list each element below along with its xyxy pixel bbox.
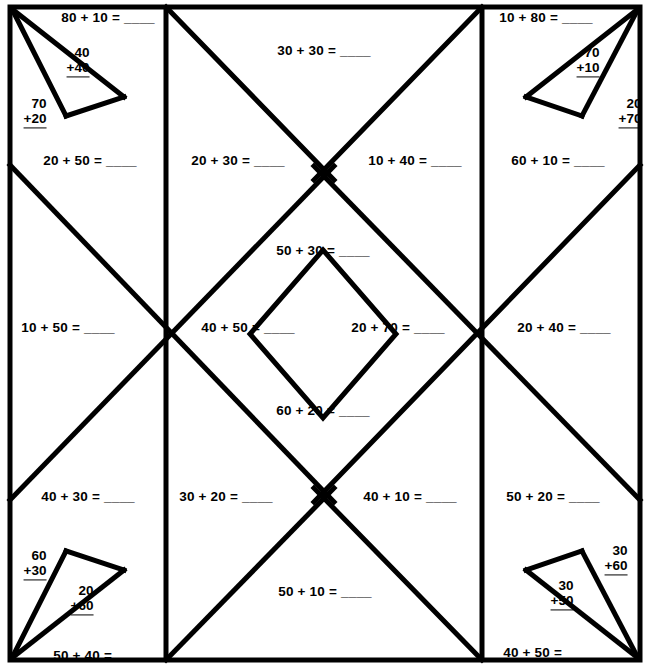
- equation-row1-col1[interactable]: 20 + 50 = ____: [43, 153, 137, 168]
- equation-stacked-tl-inner[interactable]: 40+40: [67, 46, 90, 77]
- addend-top: 70: [24, 97, 47, 112]
- equation-stacked-bl-inner[interactable]: 20+60: [71, 584, 94, 615]
- equation-row1-col2[interactable]: 20 + 30 = ____: [191, 153, 285, 168]
- equation-bottom-center[interactable]: 50 + 10 = ____: [278, 584, 372, 599]
- equation-bl-bottom[interactable]: 50 + 40 = ____: [53, 648, 147, 663]
- equation-br-bottom[interactable]: 40 + 50 = ____: [503, 645, 597, 660]
- equation-stacked-tr-inner[interactable]: 70+10: [577, 46, 600, 77]
- equation-stacked-tl-outer[interactable]: 70+20: [24, 97, 47, 128]
- equation-stacked-tr-outer[interactable]: 20+70: [619, 97, 642, 128]
- problem-labels-layer: 80 + 10 = ____30 + 30 = ____10 + 80 = __…: [0, 0, 648, 668]
- addend-bottom: +30: [24, 564, 47, 581]
- addend-bottom: +70: [619, 112, 642, 129]
- addend-bottom: +20: [24, 112, 47, 129]
- addend-top: 40: [67, 46, 90, 61]
- addend-top: 20: [619, 97, 642, 112]
- addend-bottom: +60: [71, 599, 94, 616]
- addend-bottom: +40: [67, 61, 90, 78]
- equation-stacked-bl-outer[interactable]: 60+30: [24, 549, 47, 580]
- worksheet-page: 80 + 10 = ____30 + 30 = ____10 + 80 = __…: [0, 0, 648, 668]
- addend-top: 70: [577, 46, 600, 61]
- equation-row3-col4[interactable]: 50 + 20 = ____: [506, 489, 600, 504]
- addend-bottom: +10: [577, 61, 600, 78]
- equation-row3-col3[interactable]: 40 + 10 = ____: [363, 489, 457, 504]
- equation-diamond-left[interactable]: 40 + 50 = ____: [201, 320, 295, 335]
- equation-stacked-br-inner[interactable]: 30+50: [551, 579, 574, 610]
- equation-diamond-right[interactable]: 20 + 70 = ____: [351, 320, 445, 335]
- addend-top: 30: [551, 579, 574, 594]
- equation-tl-top[interactable]: 80 + 10 = ____: [61, 10, 155, 25]
- equation-stacked-br-outer[interactable]: 30+60: [605, 544, 628, 575]
- addend-top: 30: [605, 544, 628, 559]
- equation-row2-col1[interactable]: 10 + 50 = ____: [21, 320, 115, 335]
- addend-top: 60: [24, 549, 47, 564]
- equation-row2-col4[interactable]: 20 + 40 = ____: [517, 320, 611, 335]
- equation-tr-top[interactable]: 10 + 80 = ____: [499, 10, 593, 25]
- addend-bottom: +50: [551, 594, 574, 611]
- equation-row1-col3[interactable]: 10 + 40 = ____: [368, 153, 462, 168]
- equation-row1-col4[interactable]: 60 + 10 = ____: [511, 153, 605, 168]
- equation-row3-col2[interactable]: 30 + 20 = ____: [179, 489, 273, 504]
- equation-row3-col1[interactable]: 40 + 30 = ____: [41, 489, 135, 504]
- equation-diamond-bot[interactable]: 60 + 20 = ____: [276, 403, 370, 418]
- equation-top-center[interactable]: 30 + 30 = ____: [277, 43, 371, 58]
- addend-top: 20: [71, 584, 94, 599]
- equation-diamond-top[interactable]: 50 + 30 = ____: [276, 243, 370, 258]
- addend-bottom: +60: [605, 559, 628, 576]
